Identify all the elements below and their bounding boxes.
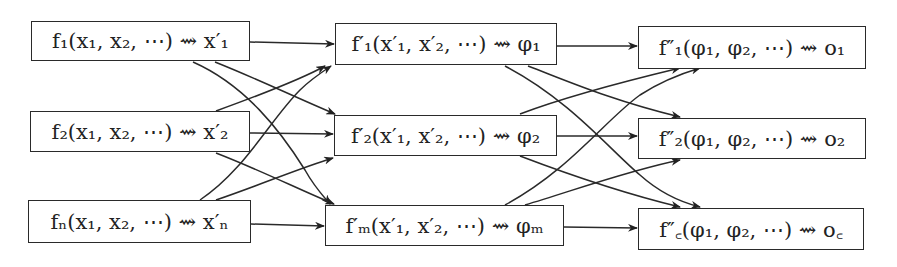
node-f2-double-prime: f″₂(φ₁, φ₂, ⋯) ⇝ o₂ [638,118,866,159]
node-fn: fₙ(x₁, x₂, ⋯) ⇝ x′ₙ [28,200,251,243]
node-fc-double-prime: f″꜀(φ₁, φ₂, ⋯) ⇝ o꜀ [638,208,864,250]
node-fm-prime: f′ₘ(x′₁, x′₂, ⋯) ⇝ φₘ [325,205,564,246]
node-f1-prime: f′₁(x′₁, x′₂, ⋯) ⇝ φ₁ [335,23,557,65]
node-f1: f₁(x₁, x₂, ⋯) ⇝ x′₁ [31,21,250,61]
node-f1-double-prime: f″₁(φ₁, φ₂, ⋯) ⇝ o₁ [638,26,866,69]
node-f2: f₂(x₁, x₂, ⋯) ⇝ x′₂ [30,111,250,152]
node-f2-prime: f′₂(x′₁, x′₂, ⋯) ⇝ φ₂ [334,115,557,156]
